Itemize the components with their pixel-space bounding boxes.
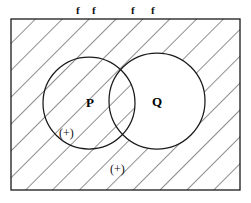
hatch-fill-region bbox=[0, 0, 251, 203]
venn-diagram-canvas bbox=[0, 0, 251, 203]
f-label-4: f bbox=[151, 5, 155, 16]
f-label-2: f bbox=[92, 5, 96, 16]
f-label-3: f bbox=[131, 5, 135, 16]
f-label-1: f bbox=[76, 5, 80, 16]
plus-label-inside-p: (+) bbox=[59, 127, 74, 139]
venn-diagram-figure: f f f f P Q (+) (+) bbox=[0, 0, 251, 203]
label-p: P bbox=[86, 96, 94, 109]
label-q: Q bbox=[152, 95, 162, 108]
plus-label-outside: (+) bbox=[110, 163, 125, 175]
